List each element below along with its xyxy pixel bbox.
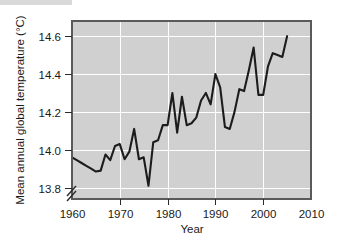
- plot-area-background: [72, 21, 311, 199]
- x-tick-label: 2000: [251, 208, 277, 220]
- y-tick-label: 14.2: [39, 107, 61, 119]
- y-tick-label: 14.4: [39, 69, 62, 81]
- y-axis-ticks: [65, 37, 72, 189]
- y-tick-label: 14.0: [39, 145, 61, 157]
- x-tick-label: 1990: [203, 208, 229, 220]
- x-axis-tick-labels: 196019701980199020002010: [60, 208, 325, 220]
- y-tick-label: 13.8: [39, 183, 61, 195]
- temperature-line-chart: 13.814.014.214.414.6 1960197019801990200…: [0, 0, 337, 241]
- x-tick-label: 1980: [156, 208, 182, 220]
- x-tick-label: 1970: [108, 208, 134, 220]
- x-tick-label: 1960: [60, 208, 86, 220]
- x-axis-title: Year: [180, 223, 203, 235]
- y-tick-label: 14.6: [39, 31, 61, 43]
- y-axis-title: Mean annual global temperature (°C): [14, 15, 26, 205]
- x-axis-ticks: [121, 199, 264, 205]
- y-axis-tick-labels: 13.814.014.214.414.6: [39, 31, 62, 195]
- x-tick-label: 2010: [299, 208, 325, 220]
- figure-container: 13.814.014.214.414.6 1960197019801990200…: [0, 0, 337, 241]
